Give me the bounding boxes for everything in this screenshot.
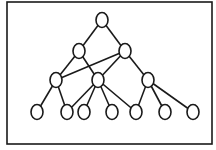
node-l2-b [92, 73, 104, 88]
node-l2-a [50, 73, 62, 88]
diagram-frame [7, 2, 212, 144]
node-l2-c [142, 73, 154, 88]
node-leaf-4 [106, 105, 118, 120]
node-leaf-5 [130, 105, 142, 120]
edges-layer [37, 20, 193, 112]
nodes-layer [31, 13, 199, 120]
node-l1-a [73, 44, 85, 59]
edge-l1-b-l2-a [56, 51, 125, 80]
diagram-canvas [0, 0, 216, 150]
node-leaf-1 [31, 105, 43, 120]
node-root [96, 13, 108, 28]
node-leaf-2 [61, 105, 73, 120]
tree-diagram [0, 0, 216, 150]
node-leaf-6 [159, 105, 171, 120]
node-l1-b [119, 44, 131, 59]
node-leaf-3 [78, 105, 90, 120]
node-leaf-7 [187, 105, 199, 120]
